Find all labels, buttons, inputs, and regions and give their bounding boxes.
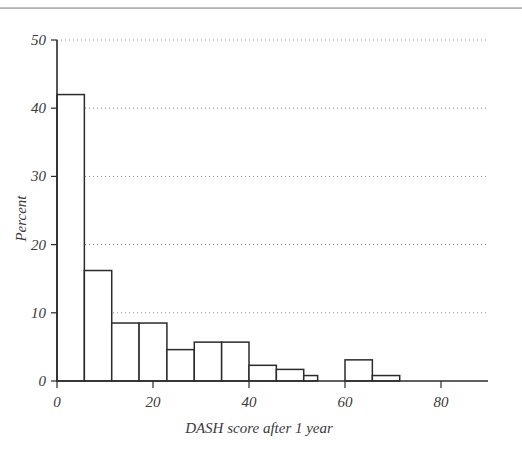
x-tick-label: 80: [434, 394, 450, 410]
y-tick-label: 40: [31, 100, 47, 116]
x-tick-label: 20: [146, 394, 162, 410]
histogram-bar: [276, 369, 303, 381]
gridlines: [57, 40, 486, 313]
y-axis-ticks: 01020304050: [30, 32, 57, 389]
x-axis-ticks: 020406080: [53, 381, 449, 410]
y-tick-label: 20: [31, 237, 47, 253]
chart-svg: 01020304050 020406080 DASH score after 1…: [0, 0, 522, 463]
y-tick-label: 50: [31, 32, 47, 48]
histogram-bar: [57, 95, 84, 381]
histogram-figure: 01020304050 020406080 DASH score after 1…: [0, 0, 522, 463]
y-axis-title: Percent: [13, 195, 29, 243]
histogram-bar: [194, 342, 221, 381]
histogram-bar: [167, 350, 194, 381]
histogram-bar: [372, 376, 399, 381]
y-tick-label: 30: [30, 168, 47, 184]
histogram-bar: [112, 323, 139, 381]
y-tick-label: 10: [31, 305, 47, 321]
histogram-bar: [84, 271, 111, 381]
histogram-bar: [249, 365, 276, 381]
histogram-bar: [304, 376, 318, 381]
histogram-bar: [222, 342, 249, 381]
bar-series: [57, 95, 400, 381]
histogram-bar: [139, 323, 167, 381]
x-tick-label: 0: [53, 394, 61, 410]
x-tick-label: 40: [242, 394, 258, 410]
x-axis-title: DASH score after 1 year: [184, 420, 333, 436]
plot-area: 01020304050 020406080 DASH score after 1…: [0, 0, 522, 463]
x-tick-label: 60: [338, 394, 354, 410]
histogram-bar: [345, 360, 372, 381]
y-tick-label: 0: [39, 373, 47, 389]
